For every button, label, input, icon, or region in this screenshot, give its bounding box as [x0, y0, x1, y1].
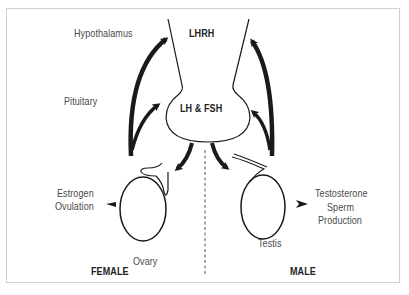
- label-hypothalamus: Hypothalamus: [74, 27, 133, 40]
- ovary-shape: [120, 177, 166, 241]
- testis-shape: [241, 175, 285, 239]
- label-testis: Testis: [258, 237, 282, 250]
- label-lh-fsh: LH & FSH: [180, 102, 222, 115]
- lh-fsh-arrow-to-ovary: [177, 143, 192, 169]
- label-lhrh: LHRH: [189, 27, 214, 40]
- feedback-arrow-right-pituitary: [253, 112, 270, 150]
- label-sperm: Sperm: [327, 201, 354, 214]
- fallopian-tube: [141, 163, 168, 195]
- label-male: MALE: [290, 265, 316, 278]
- label-testosterone: Testosterone: [315, 187, 368, 200]
- label-ovulation: Ovulation: [55, 200, 94, 213]
- label-estrogen: Estrogen: [57, 187, 94, 200]
- vas-deferens: [232, 154, 267, 182]
- hpg-axis-diagram: [0, 0, 409, 295]
- lh-fsh-arrow-to-testis: [212, 143, 227, 168]
- label-pituitary: Pituitary: [64, 95, 97, 108]
- label-ovary: Ovary: [133, 255, 157, 268]
- label-production: Production: [318, 214, 362, 227]
- feedback-arrow-left-pituitary: [132, 105, 158, 150]
- label-female: FEMALE: [91, 265, 129, 278]
- testosterone-arrowhead: [296, 200, 308, 208]
- estrogen-arrowhead: [106, 202, 116, 207]
